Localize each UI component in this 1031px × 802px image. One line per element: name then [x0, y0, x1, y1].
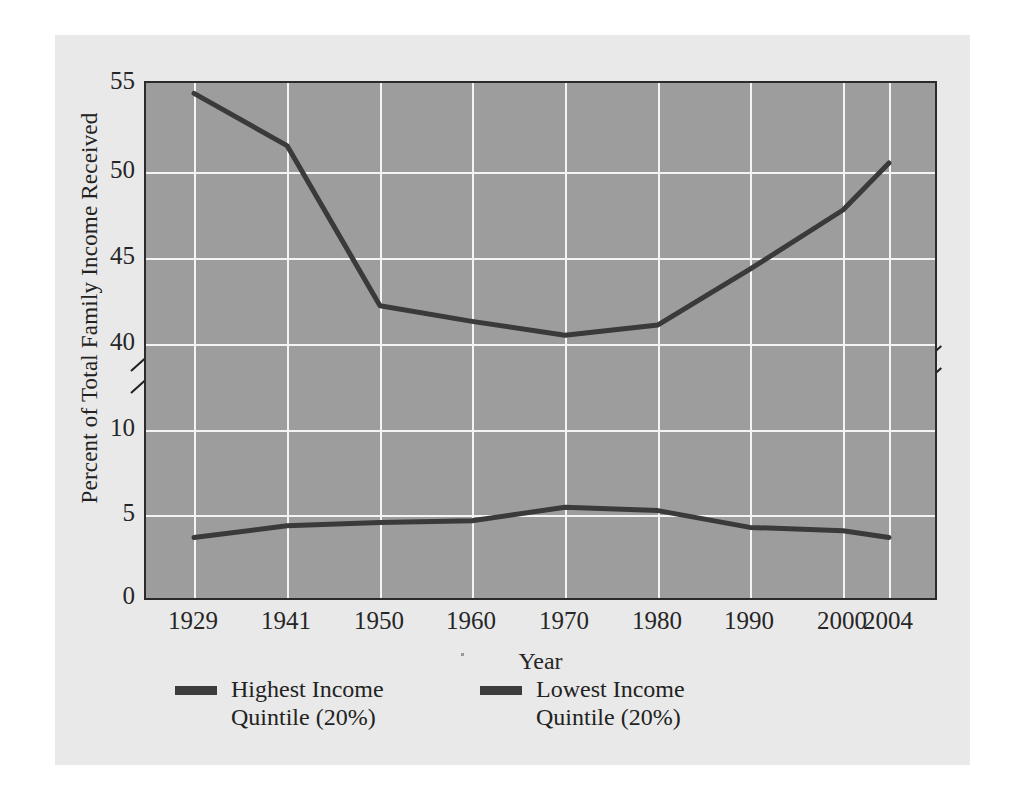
x-axis-tick-label: 1950 [354, 607, 404, 635]
legend-label: Highest Income Quintile (20%) [231, 675, 384, 732]
x-axis-tick-label: 1941 [261, 607, 311, 635]
y-axis-tick-label: 40 [89, 329, 135, 354]
legend: Highest Income Quintile (20%) Lowest Inc… [175, 675, 875, 745]
x-axis-tick-label: 2000 [817, 607, 867, 635]
series-line-highest-income-quintile [194, 93, 889, 335]
y-axis-tick-label: 45 [89, 243, 135, 268]
x-axis-ticks: 192919411950196019701980199020002004 [144, 607, 937, 641]
x-axis-tick-label: 1980 [632, 607, 682, 635]
x-axis-tick-label: 1970 [539, 607, 589, 635]
legend-label: Lowest Income Quintile (20%) [536, 675, 685, 732]
legend-item-highest-income-quintile: Highest Income Quintile (20%) [175, 675, 384, 732]
plot-area [144, 81, 937, 600]
y-axis-tick-label: 55 [89, 68, 135, 93]
x-axis-tick-label: 1960 [446, 607, 496, 635]
series-line-lowest-income-quintile [194, 507, 889, 537]
y-axis-ticks: 555045401050 [55, 81, 135, 596]
y-axis-tick-label: 10 [89, 415, 135, 440]
figure-panel: Percent of Total Family Income Received … [55, 35, 970, 765]
legend-item-lowest-income-quintile: Lowest Income Quintile (20%) [480, 675, 685, 732]
x-axis-tick-label: 1990 [724, 607, 774, 635]
series-lines [146, 83, 935, 598]
legend-swatch-icon [480, 686, 522, 695]
x-axis-label: Year [144, 648, 937, 675]
y-axis-tick-label: 50 [89, 157, 135, 182]
x-axis-tick-label: 2004 [863, 607, 913, 635]
y-axis-label-wrapper: Percent of Total Family Income Received [55, 35, 56, 36]
x-axis-tick-label: 1929 [168, 607, 218, 635]
stray-dot-mark [461, 653, 464, 656]
y-axis-tick-label: 5 [89, 500, 135, 525]
legend-swatch-icon [175, 686, 217, 695]
y-axis-tick-label: 0 [89, 583, 135, 608]
